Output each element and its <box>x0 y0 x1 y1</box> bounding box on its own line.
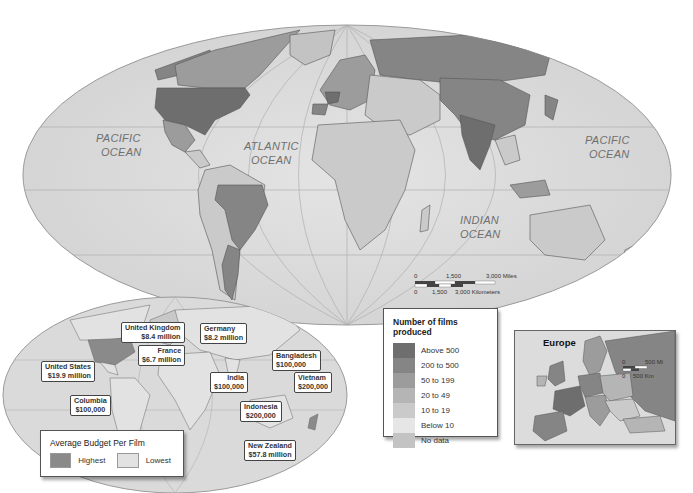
europe-scale-km-1: 500 Km <box>633 373 654 379</box>
ocean-label-atlantic-1: ATLANTIC <box>243 140 299 152</box>
ocean-label-pacific-east-1: PACIFIC <box>585 134 630 146</box>
ocean-label-pacific-west-2: OCEAN <box>101 146 142 158</box>
ocean-label-indian-2: OCEAN <box>460 228 501 240</box>
ocean-label-pacific-west-1: PACIFIC <box>96 132 141 144</box>
legend-label: Below 10 <box>421 421 454 430</box>
ocean-label-pacific-east-2: OCEAN <box>589 148 630 160</box>
scale-miles-2: 3,000 Miles <box>486 273 517 279</box>
callout-value: $19.9 million <box>45 372 91 381</box>
callout-value: $8.2 million <box>204 334 243 343</box>
legend-swatch <box>393 373 415 388</box>
legend-item-50-to-199: 50 to 199 <box>393 373 497 388</box>
legend-item-below-10: Below 10 <box>393 418 497 433</box>
callout-france: France $6.7 million <box>138 345 185 366</box>
scale-km-2: 3,000 Kilometers <box>455 289 500 295</box>
callout-value: $100,000 <box>214 383 244 392</box>
europe-scale-mi-1: 500 Mi <box>645 359 663 365</box>
callout-indonesia: Indonesia $200,000 <box>240 401 282 422</box>
budget-legend-title: Average Budget Per Film <box>50 438 183 448</box>
callout-value: $200,000 <box>298 383 328 392</box>
callout-vietnam: Vietnam $200,000 <box>294 372 332 393</box>
ocean-label-atlantic-2: OCEAN <box>251 154 292 166</box>
legend-label: 50 to 199 <box>421 376 454 385</box>
scale-miles-1: 1,500 <box>446 273 462 279</box>
legend-swatch <box>393 388 415 403</box>
budget-legend: Average Budget Per Film Highest Lowest <box>40 430 184 477</box>
callout-india: India $100,000 <box>210 372 248 393</box>
legend-label-lowest: Lowest <box>146 456 171 465</box>
legend-swatch <box>393 343 415 358</box>
legend-swatch-highest <box>50 453 71 468</box>
callout-value: $6.7 million <box>142 356 181 365</box>
scale-km-1: 1,500 <box>432 289 448 295</box>
callout-new-zealand: New Zealand $57.8 million <box>244 440 296 461</box>
legend-item-20-to-49: 20 to 49 <box>393 388 497 403</box>
legend-item-no-data: No data <box>393 433 497 448</box>
callout-bangladesh: Bangladesh $100,000 <box>272 350 321 371</box>
legend-swatch <box>393 403 415 418</box>
europe-inset-svg: 0 500 Mi 0 500 Km <box>515 331 675 444</box>
callout-value: $200,000 <box>244 412 278 421</box>
films-produced-legend: Number of films produced Above 500 200 t… <box>383 308 498 437</box>
callout-value: $100,000 <box>74 406 107 415</box>
callout-germany: Germany $8.2 million <box>200 323 247 344</box>
legend-label-highest: Highest <box>78 456 105 465</box>
callout-columbia: Columbia $100,000 <box>70 395 111 416</box>
ocean-label-indian-1: INDIAN <box>460 214 499 226</box>
callout-value: $100,000 <box>276 361 317 370</box>
legend-swatch <box>393 358 415 373</box>
legend-item-200-to-500: 200 to 500 <box>393 358 497 373</box>
callout-value: $8.4 million <box>125 333 181 342</box>
legend-label: Above 500 <box>421 346 459 355</box>
legend-label: 20 to 49 <box>421 391 450 400</box>
legend-swatch <box>393 433 415 448</box>
legend-label: No data <box>421 436 449 445</box>
legend-item-10-to-19: 10 to 19 <box>393 403 497 418</box>
legend-label: 10 to 19 <box>421 406 450 415</box>
legend-swatch <box>393 418 415 433</box>
europe-inset-map: 0 500 Mi 0 500 Km Europe <box>514 330 676 445</box>
films-legend-title: Number of films produced <box>393 317 497 337</box>
callout-value: $57.8 million <box>248 451 292 460</box>
legend-label: 200 to 500 <box>421 361 459 370</box>
main-world-map: PACIFIC OCEAN ATLANTIC OCEAN INDIAN OCEA… <box>20 25 675 325</box>
callout-united-kingdom: United Kingdom $8.4 million <box>121 322 185 343</box>
legend-swatch-lowest <box>117 453 138 468</box>
callout-united-states: United States $19.9 million <box>41 361 95 382</box>
legend-item-above-500: Above 500 <box>393 343 497 358</box>
europe-inset-title: Europe <box>543 337 576 348</box>
